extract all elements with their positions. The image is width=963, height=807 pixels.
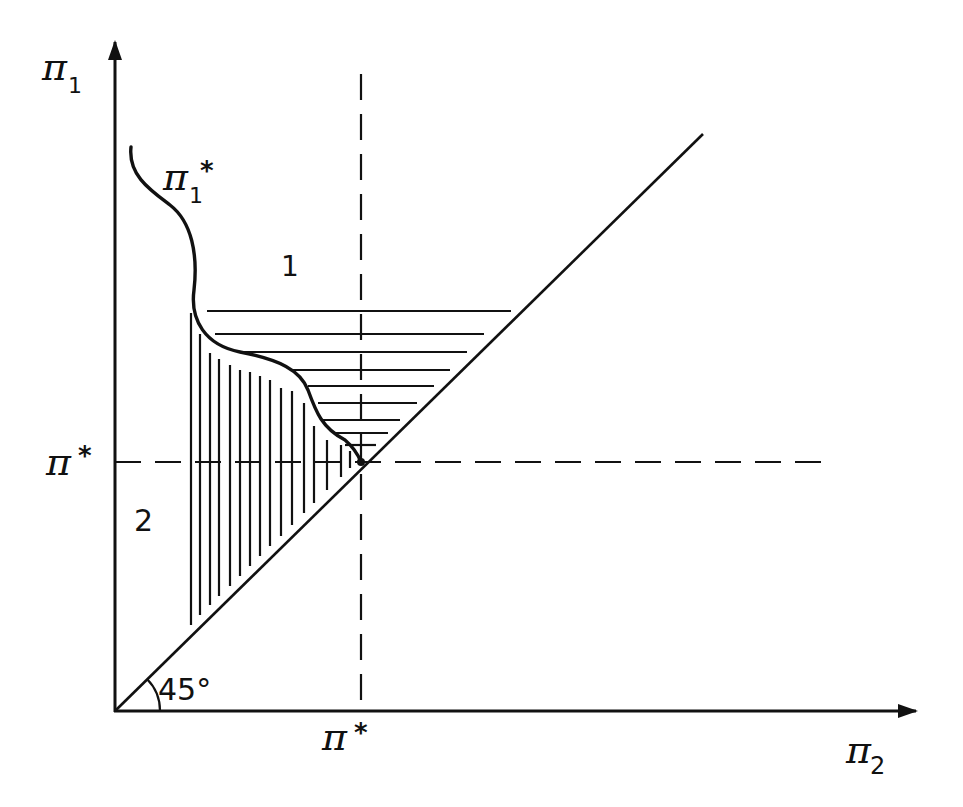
region-2-label: 2 — [134, 503, 153, 538]
angle-label: 45° — [158, 672, 211, 707]
threshold-diagram: π 1 π 2 π * π * π 1 * 1 2 45° — [0, 0, 963, 807]
x-axis-label-subscript: 2 — [870, 752, 885, 780]
x-axis-label: π — [845, 728, 872, 772]
curve-label-star: * — [200, 156, 214, 186]
horizontal-hatching — [207, 311, 511, 445]
x-threshold-star: * — [354, 718, 368, 748]
equilibrium-point — [357, 458, 365, 466]
curve-label: π — [162, 155, 189, 199]
y-threshold-label: π — [45, 440, 72, 484]
y-threshold-star: * — [78, 441, 92, 471]
curve-label-subscript: 1 — [189, 183, 203, 208]
x-threshold-label: π — [321, 715, 348, 759]
45-degree-line — [115, 134, 703, 711]
y-axis-label: π — [41, 45, 68, 89]
y-axis-label-subscript: 1 — [68, 73, 82, 98]
region-1-label: 1 — [281, 250, 299, 283]
